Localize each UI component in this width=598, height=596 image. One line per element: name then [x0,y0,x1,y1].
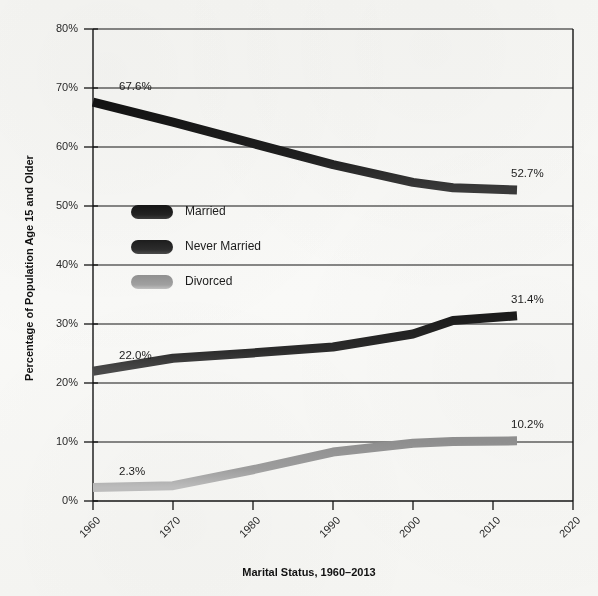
x-tick-label: 1990 [317,514,343,540]
legend-swatch [131,240,173,254]
data-label-end: 10.2% [511,418,544,430]
data-point-labels: 67.6%52.7%22.0%31.4%2.3%10.2% [119,80,544,477]
data-series-group [93,102,517,487]
y-tick-label: 50% [56,199,78,211]
legend-label: Never Married [185,239,261,253]
x-tick-label: 2020 [557,514,583,540]
gridlines [84,29,573,501]
x-axis-tick-labels: 1960197019801990200020102020 [77,501,583,540]
y-tick-label: 80% [56,22,78,34]
data-label-end: 52.7% [511,167,544,179]
y-tick-label: 30% [56,317,78,329]
x-axis-title: Marital Status, 1960–2013 [242,566,375,578]
series-line-married [93,102,517,190]
x-tick-label: 1970 [157,514,183,540]
legend-label: Married [185,204,226,218]
y-tick-label: 10% [56,435,78,447]
y-tick-label: 0% [62,494,78,506]
line-chart: 0%10%20%30%40%50%60%70%80% 1960197019801… [0,0,598,596]
legend-swatch [131,205,173,219]
data-label-end: 31.4% [511,293,544,305]
y-axis-tick-labels: 0%10%20%30%40%50%60%70%80% [56,22,78,506]
y-tick-label: 40% [56,258,78,270]
data-label-start: 67.6% [119,80,152,92]
data-label-start: 22.0% [119,349,152,361]
x-tick-label: 1960 [77,514,103,540]
x-tick-label: 2010 [477,514,503,540]
x-tick-label: 1980 [237,514,263,540]
x-tick-label: 2000 [397,514,423,540]
legend-label: Divorced [185,274,232,288]
y-tick-label: 70% [56,81,78,93]
y-tick-label: 20% [56,376,78,388]
legend-swatch [131,275,173,289]
chart-legend: MarriedNever MarriedDivorced [131,204,261,289]
y-tick-label: 60% [56,140,78,152]
chart-container: 0%10%20%30%40%50%60%70%80% 1960197019801… [0,0,598,596]
series-line-divorced [93,441,517,488]
data-label-start: 2.3% [119,465,145,477]
y-axis-title: Percentage of Population Age 15 and Olde… [23,154,35,380]
